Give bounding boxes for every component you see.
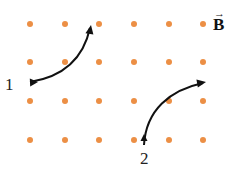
field-dot-icon [27, 98, 33, 104]
field-dot-icon [131, 21, 137, 27]
field-dot-icon [131, 137, 137, 143]
field-label: B → [213, 7, 225, 34]
trajectory-curve [144, 83, 203, 145]
path-label: 2 [140, 149, 149, 168]
field-dot-icon [27, 59, 33, 65]
trajectory-curve [30, 28, 90, 82]
field-dot-icon [166, 137, 172, 143]
field-dot-icon [200, 59, 206, 65]
field-dot-icon [96, 98, 102, 104]
vector-arrow-icon: → [214, 7, 225, 19]
entry-arrowhead-icon [30, 78, 38, 86]
field-dot-icon [62, 59, 68, 65]
field-dot-icon [62, 137, 68, 143]
field-dot-icon [62, 98, 68, 104]
field-dot-icon [96, 21, 102, 27]
field-dot-icon [96, 59, 102, 65]
field-dot-icon [96, 137, 102, 143]
particle-paths: 12 [5, 24, 207, 168]
arrowhead-icon [196, 78, 206, 87]
path-label: 1 [5, 75, 14, 94]
particle-path-2: 2 [140, 78, 207, 168]
field-dot-icon [200, 21, 206, 27]
entry-arrowhead-icon [141, 134, 148, 141]
field-dot-icon [62, 21, 68, 27]
field-dot-icon [131, 59, 137, 65]
magnetic-field-diagram: 12 B → [0, 0, 235, 178]
field-dot-icon [166, 59, 172, 65]
field-dot-icon [166, 21, 172, 27]
field-dot-icon [27, 137, 33, 143]
arrowhead-icon [85, 24, 94, 34]
field-dot-grid [27, 21, 206, 143]
field-dot-icon [131, 98, 137, 104]
field-dot-icon [200, 98, 206, 104]
field-dot-icon [27, 21, 33, 27]
particle-path-1: 1 [5, 24, 95, 94]
field-dot-icon [200, 137, 206, 143]
